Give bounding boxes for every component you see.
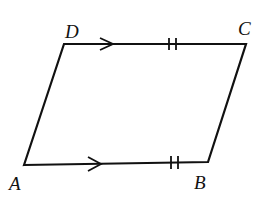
parallelogram-outline — [24, 44, 246, 165]
vertex-label-c: C — [238, 18, 251, 39]
vertex-label-b: B — [194, 172, 206, 193]
vertex-label-d: D — [64, 21, 79, 42]
parallelogram-diagram: A B C D — [0, 0, 263, 202]
vertex-label-a: A — [7, 173, 21, 194]
